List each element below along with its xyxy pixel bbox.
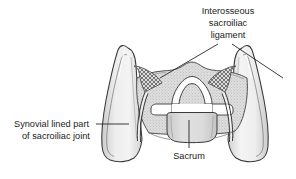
sacral-vertebral-body (167, 113, 217, 143)
label-synovial-line-2: of sacroiliac joint (22, 131, 90, 141)
label-ligament-line-3: ligament (211, 30, 246, 40)
left-iliac-wing (102, 46, 142, 162)
label-ligament-line-2: sacroiliac (209, 18, 248, 28)
sacroiliac-cross-section-illustration: Interosseous sacroiliac ligament Synovia… (0, 0, 296, 179)
label-synovial-lined-part-of-sacroiliac-joint: Synovial lined part of sacroiliac joint (14, 119, 90, 141)
label-synovial-line-1: Synovial lined part (14, 119, 90, 129)
label-interosseous-sacroiliac-ligament: Interosseous sacroiliac ligament (202, 6, 255, 40)
label-ligament-line-1: Interosseous (202, 6, 255, 16)
anatomical-figure: Interosseous sacroiliac ligament Synovia… (0, 0, 296, 179)
label-sacrum: Sacrum (173, 151, 205, 161)
label-sacrum-line-1: Sacrum (173, 151, 205, 161)
